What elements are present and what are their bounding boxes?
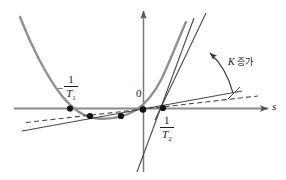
fraction-one-over-t2: 1T2 [160,115,174,143]
breakaway-dot-1 [67,105,73,111]
fraction-denominator: T2 [160,129,174,144]
gain-symbol: K [228,56,235,67]
fraction-numerator: 1 [64,74,78,86]
tangent-line-steeper [155,13,206,120]
breakaway-dot-2 [87,113,93,119]
figure-canvas: −1T1 1T2 0 s K 증가 [0,0,286,180]
diagram-svg [0,0,286,180]
fraction-denominator: T1 [64,88,78,103]
fraction-numerator: 1 [160,115,174,127]
root-locus-curve [20,17,186,119]
tangent-line-shallow [22,91,242,131]
breakaway-dot-5 [160,105,166,111]
pole-label-minus-one-over-t1: −1T1 [57,74,78,102]
fraction-one-over-t1: 1T1 [64,74,78,102]
s-axis-label: s [272,101,276,112]
denominator-subscript: 1 [72,94,76,102]
breakaway-dot-4 [140,106,147,113]
gain-caption-text: 증가 [237,57,253,67]
origin-label: 0 [136,88,142,99]
zero-label-one-over-t2: 1T2 [160,115,174,143]
gain-increase-label: K 증가 [228,57,253,67]
denominator-subscript: 2 [168,135,172,143]
breakaway-dot-3 [118,113,124,119]
tangent-line-steep [137,18,194,172]
minus-sign: − [57,83,64,94]
